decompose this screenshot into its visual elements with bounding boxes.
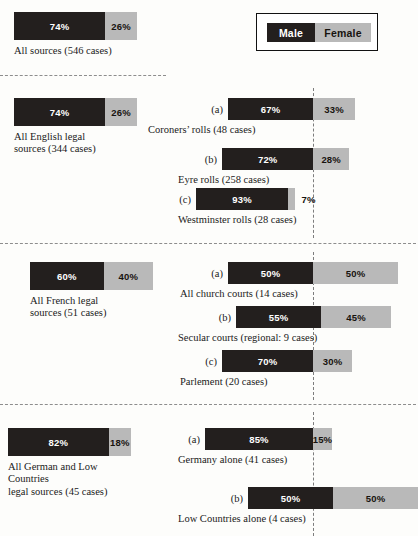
bar-segment-male: 50% [248,487,333,509]
bar-segment-female: 26% [105,12,137,40]
bar-group-westminster-rolls: (c) 93% 7% Westminster rolls (28 cases) [196,188,322,226]
bar-segment-female: 40% [104,262,153,290]
bar-group-secular-courts: (b) 55% 45% Secular courts (regional: 9 … [236,306,391,344]
bar-coroners-rolls: (a) 67% 33% [228,98,355,120]
bar-caption: All English legal sources (344 cases) [14,131,137,156]
bar-key-label: (c) [179,194,191,205]
bar-segment-male: 93% [196,188,288,210]
bar-value-label-female: 7% [295,188,322,210]
bar-segment-female: 50% [333,487,418,509]
bar-segment-male: 50% [228,262,313,284]
bar-caption: All church courts (14 cases) [180,288,398,300]
bar-segment-male: 72% [222,148,313,170]
bar-caption: Low Countries alone (4 cases) [178,513,418,525]
section-divider-3 [0,404,416,405]
chart-legend: Male Female [256,13,378,51]
bar-parlement: (c) 70% 30% [222,350,352,372]
bar-segment-female: 45% [321,306,391,328]
bar-caption: Coroners’ rolls (48 cases) [148,124,355,136]
bar-key-label: (b) [231,493,243,504]
bar-segment-male: 74% [14,12,105,40]
bar-key-label: (a) [211,104,223,115]
section-divider-2 [0,243,416,244]
bar-segment-male: 60% [30,262,104,290]
bar-segment-female: 30% [313,350,352,372]
bar-caption: Eyre rolls (258 cases) [178,174,349,186]
bar-segment-female: 26% [105,98,137,126]
bar-segment-male: 74% [14,98,105,126]
bar-caption: All sources (546 cases) [14,45,137,57]
bar-segment-female: 50% [313,262,398,284]
bar-group-eyre-rolls: (b) 72% 28% Eyre rolls (258 cases) [222,148,349,186]
bar-all-french-legal-sources: 60% 40% [30,262,153,290]
bar-group-germany-alone: (a) 85% 15% Germany alone (41 cases) [205,428,332,466]
bar-segment-male: 67% [228,98,313,120]
bar-segment-female: 18% [109,428,131,456]
bar-group-all-church-courts: (a) 50% 50% All church courts (14 cases) [228,262,398,300]
bar-all-church-courts: (a) 50% 50% [228,262,398,284]
bar-group-coroners-rolls: (a) 67% 33% Coroners’ rolls (48 cases) [228,98,355,136]
bar-group-all-french-legal-sources: 60% 40% All French legal sources (51 cas… [30,262,153,320]
legend-swatch-male: Male [267,23,315,42]
bar-segment-female [288,188,295,210]
bar-group-all-sources: 74% 26% All sources (546 cases) [14,12,137,57]
bar-low-countries-alone: (b) 50% 50% [248,487,418,509]
bar-group-parlement: (c) 70% 30% Parlement (20 cases) [222,350,352,388]
bar-all-german-low-countries-legal-sources: 82% 18% [8,428,131,456]
bar-key-label: (b) [219,312,231,323]
bar-caption: All French legal sources (51 cases) [30,295,153,320]
bar-caption: Secular courts (regional: 9 cases) [178,332,391,344]
legend-swatches: Male Female [267,23,371,42]
bar-key-label: (c) [205,356,217,367]
bar-segment-male: 55% [236,306,321,328]
bar-all-sources: 74% 26% [14,12,137,40]
bar-segment-female: 15% [313,428,332,450]
bar-germany-alone: (a) 85% 15% [205,428,332,450]
bar-group-low-countries-alone: (b) 50% 50% Low Countries alone (4 cases… [248,487,418,525]
bar-caption: All German and Low Countries legal sourc… [8,461,131,498]
bar-eyre-rolls: (b) 72% 28% [222,148,349,170]
bar-all-english-legal-sources: 74% 26% [14,98,137,126]
bar-segment-male: 70% [222,350,313,372]
bar-caption: Parlement (20 cases) [180,376,352,388]
bar-westminster-rolls: (c) 93% 7% [196,188,322,210]
bar-group-all-english-legal-sources: 74% 26% All English legal sources (344 c… [14,98,137,156]
section-divider-1 [0,75,166,76]
legend-swatch-female: Female [315,23,371,42]
bar-segment-male: 82% [8,428,109,456]
bar-key-label: (b) [205,154,217,165]
bar-caption: Westminster rolls (28 cases) [178,214,322,226]
bar-secular-courts: (b) 55% 45% [236,306,391,328]
bar-group-all-german-low-countries-legal-sources: 82% 18% All German and Low Countries leg… [8,428,131,498]
bar-segment-female: 28% [313,148,349,170]
bar-segment-male: 85% [205,428,313,450]
bar-key-label: (a) [188,434,200,445]
bar-segment-female: 33% [313,98,355,120]
bar-key-label: (a) [211,268,223,279]
bar-caption: Germany alone (41 cases) [178,454,332,466]
